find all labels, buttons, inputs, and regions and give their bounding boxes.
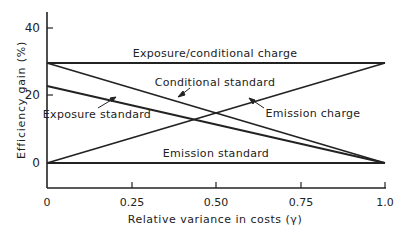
label-exposure-conditional-charge: Exposure/conditional charge xyxy=(133,47,298,60)
x-tick-label: 1.0 xyxy=(376,196,394,209)
x-tick-label: 0.75 xyxy=(289,196,314,209)
label-emission-standard: Emission standard xyxy=(163,147,269,160)
x-tick-label: 0.50 xyxy=(204,196,229,209)
y-axis-label: Efficiency gain (%) xyxy=(15,41,28,159)
label-emission-charge: Emission charge xyxy=(266,107,361,120)
efficiency-gain-chart: 40 20 0 0 0.25 0.50 0.75 1.0 Relative va… xyxy=(0,0,405,235)
x-tick-label: 0 xyxy=(44,196,51,209)
label-conditional-standard: Conditional standard xyxy=(155,76,276,89)
y-tick-label: 0 xyxy=(32,156,40,170)
y-tick-label: 40 xyxy=(25,21,40,35)
x-axis-label: Relative variance in costs (γ) xyxy=(128,213,302,226)
pointer-arrows xyxy=(98,88,264,108)
label-exposure-standard: Exposure standard xyxy=(43,108,151,121)
x-tick-label: 0.25 xyxy=(120,196,145,209)
